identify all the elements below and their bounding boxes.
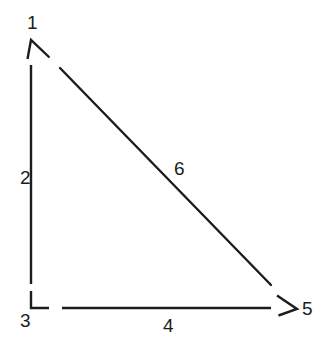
hypotenuse-line [60, 68, 271, 285]
arrowhead-up-icon [28, 40, 50, 59]
label-vertical-side: 2 [20, 168, 31, 187]
label-apex-vertex: 1 [27, 13, 38, 32]
label-bottom-left-vertex: 3 [20, 311, 31, 330]
label-bottom-side: 4 [163, 316, 174, 335]
arrowhead-right-icon [277, 296, 297, 316]
label-hypotenuse: 6 [174, 159, 185, 178]
triangle-diagram-svg [0, 0, 320, 345]
label-bottom-right-vertex: 5 [302, 299, 313, 318]
right-angle-marker-icon [31, 291, 49, 308]
diagram-canvas: 1 2 3 4 5 6 [0, 0, 320, 345]
